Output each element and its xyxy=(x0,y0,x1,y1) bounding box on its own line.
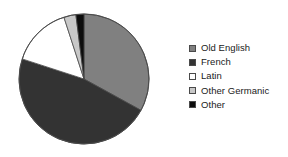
legend-label-french: French xyxy=(201,57,231,67)
pie-slices-group xyxy=(19,14,149,144)
pie-chart-svg xyxy=(0,0,176,157)
legend-item-other[interactable]: Other xyxy=(189,98,288,112)
legend-item-old-english[interactable]: Old English xyxy=(189,41,288,55)
legend-swatch-other-germanic xyxy=(189,87,196,94)
pie-chart-figure: Old English French Latin Other Germanic … xyxy=(0,0,288,157)
legend-item-latin[interactable]: Latin xyxy=(189,69,288,83)
chart-plot-area xyxy=(0,0,176,157)
legend-swatch-other xyxy=(189,101,196,108)
legend-swatch-latin xyxy=(189,73,196,80)
legend-item-other-germanic[interactable]: Other Germanic xyxy=(189,84,288,98)
legend-label-other-germanic: Other Germanic xyxy=(201,86,269,96)
legend-swatch-french xyxy=(189,59,196,66)
chart-legend: Old English French Latin Other Germanic … xyxy=(189,41,288,112)
legend-swatch-old-english xyxy=(189,45,196,52)
legend-item-french[interactable]: French xyxy=(189,55,288,69)
legend-label-other: Other xyxy=(201,100,225,110)
legend-label-old-english: Old English xyxy=(201,43,250,53)
legend-label-latin: Latin xyxy=(201,71,222,81)
